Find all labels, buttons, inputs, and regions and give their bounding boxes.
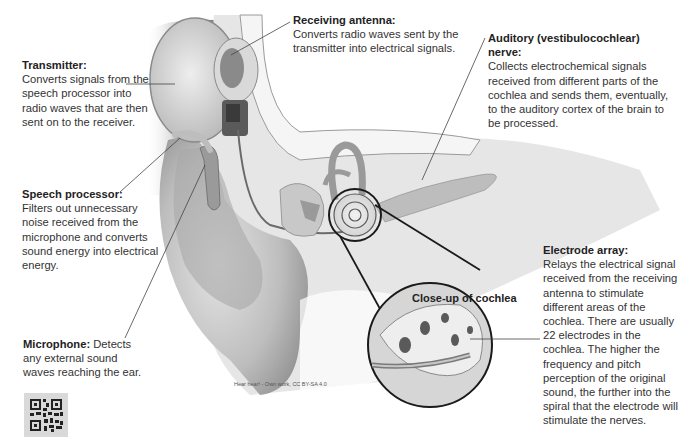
clipped-top-text bbox=[20, 0, 660, 2]
image-credit: Hear hear! - Own work, CC BY-SA 4.0 bbox=[234, 381, 327, 387]
label-title: Receiving antenna: bbox=[293, 14, 396, 26]
label-body: Relays the electrical signal received fr… bbox=[543, 257, 678, 427]
label-title: Auditory (vestibulocochlear) nerve: bbox=[488, 32, 640, 58]
label-title: Speech processor: bbox=[22, 188, 123, 200]
label-speech-processor: Speech processor: Filters out unnecessar… bbox=[22, 187, 162, 272]
label-receiving-antenna: Receiving antenna: Converts radio waves … bbox=[293, 13, 463, 56]
label-microphone: Microphone: Detects any external sound w… bbox=[23, 337, 148, 380]
label-auditory-nerve: Auditory (vestibulocochlear) nerve: Coll… bbox=[488, 31, 673, 130]
cochlea bbox=[329, 189, 381, 241]
label-title: Microphone: bbox=[23, 338, 90, 350]
qr-code-icon[interactable] bbox=[24, 393, 68, 437]
label-title: Electrode array: bbox=[543, 244, 628, 256]
label-body: Filters out unnecessary noise received f… bbox=[22, 201, 162, 272]
label-body: Collects electrochemical signals receive… bbox=[488, 59, 673, 130]
label-transmitter: Transmitter: Converts signals from the s… bbox=[22, 58, 152, 129]
closeup-caption: Close-up of cochlea bbox=[412, 292, 517, 304]
label-electrode-array: Electrode array: Relays the electrical s… bbox=[543, 243, 678, 428]
label-body: Converts radio waves sent by the transmi… bbox=[293, 27, 463, 55]
label-body: Converts signals from the speech process… bbox=[22, 72, 152, 129]
label-title: Transmitter: bbox=[22, 59, 87, 71]
